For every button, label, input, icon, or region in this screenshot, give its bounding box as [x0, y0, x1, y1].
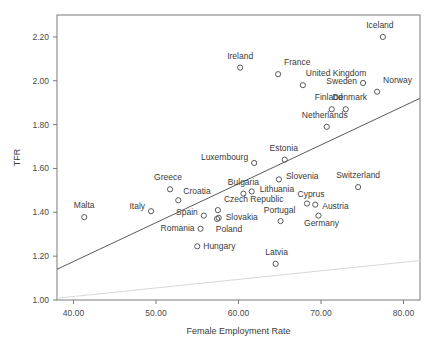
x-axis-ticks: 40.0050.0060.0070.0080.00 — [63, 300, 415, 318]
x-tick-label: 40.00 — [63, 308, 85, 318]
data-point-label: Ireland — [227, 51, 253, 61]
data-point-label: Croatia — [183, 186, 211, 196]
data-point-label: Romania — [161, 223, 195, 233]
data-point-marker — [148, 209, 153, 214]
data-point-label: Luxembourg — [201, 152, 249, 162]
data-point-marker — [278, 218, 283, 223]
data-point-label: Latvia — [265, 247, 288, 257]
data-point-marker — [300, 83, 305, 88]
data-point-label: Spain — [176, 207, 198, 217]
data-point-label: Malta — [74, 200, 95, 210]
data-point-marker — [195, 244, 200, 249]
y-tick-label: 1.00 — [32, 295, 49, 305]
data-point-label: Germany — [304, 218, 340, 228]
data-point-marker — [201, 213, 206, 218]
data-point-marker — [380, 34, 385, 39]
data-point-marker — [375, 89, 380, 94]
data-point-marker — [252, 160, 257, 165]
data-point-marker — [276, 72, 281, 77]
x-axis-title: Female Employment Rate — [186, 326, 290, 336]
data-point-label: Greece — [154, 172, 182, 182]
y-tick-label: 1.60 — [32, 163, 49, 173]
data-point-label: Switzerland — [336, 170, 380, 180]
data-point-label: Sweden — [326, 76, 357, 86]
x-tick-label: 70.00 — [310, 308, 332, 318]
data-point-marker — [313, 202, 318, 207]
data-point-label: Finland — [315, 92, 343, 102]
data-point-marker — [198, 226, 203, 231]
data-point-label: Czech Republic — [224, 194, 284, 204]
y-tick-label: 1.80 — [32, 120, 49, 130]
faint-line — [57, 261, 420, 299]
data-point-marker — [167, 187, 172, 192]
data-point-marker — [82, 215, 87, 220]
data-point-label: Netherlands — [302, 110, 348, 120]
data-point-label: Iceland — [366, 20, 394, 30]
data-point-marker — [276, 177, 281, 182]
data-point-marker — [214, 216, 219, 221]
data-point-marker — [273, 261, 278, 266]
y-tick-label: 1.20 — [32, 251, 49, 261]
data-point-label: Slovakia — [226, 212, 258, 222]
data-point-label: Slovenia — [286, 171, 319, 181]
y-tick-label: 2.00 — [32, 76, 49, 86]
data-point-label: Estonia — [270, 143, 299, 153]
data-point-marker — [176, 198, 181, 203]
data-point-label: Hungary — [203, 241, 236, 251]
data-point-label: Bulgaria — [228, 177, 259, 187]
y-tick-label: 1.40 — [32, 207, 49, 217]
y-axis-title: TFR — [12, 148, 22, 166]
x-tick-label: 60.00 — [228, 308, 250, 318]
data-point-label: Lithuania — [260, 184, 295, 194]
x-tick-label: 80.00 — [393, 308, 415, 318]
data-point-marker — [304, 201, 309, 206]
data-point-label: Italy — [129, 201, 145, 211]
data-point-marker — [324, 124, 329, 129]
data-point-marker — [215, 208, 220, 213]
data-point-marker — [360, 80, 365, 85]
y-axis-ticks: 1.001.201.401.601.802.002.20 — [32, 32, 57, 305]
data-point-label: Norway — [383, 75, 413, 85]
data-point-label: Cyprus — [298, 189, 325, 199]
data-point-marker — [356, 184, 361, 189]
data-point-label: Portugal — [264, 205, 296, 215]
scatter-chart: 40.0050.0060.0070.0080.00 1.001.201.401.… — [0, 0, 445, 350]
data-point-marker — [238, 65, 243, 70]
data-points: IcelandIrelandFranceUnited KingdomNorway… — [74, 20, 413, 267]
data-point-label: Poland — [216, 224, 243, 234]
data-point-label: Austria — [322, 201, 349, 211]
chart-canvas: 40.0050.0060.0070.0080.00 1.001.201.401.… — [0, 0, 445, 350]
data-point-label: France — [284, 57, 311, 67]
x-tick-label: 50.00 — [145, 308, 167, 318]
y-tick-label: 2.20 — [32, 32, 49, 42]
